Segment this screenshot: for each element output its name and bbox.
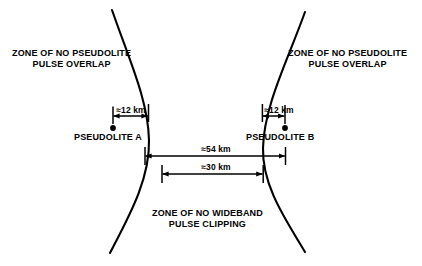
pseudolite-zone-diagram: ZONE OF NO PSEUDOLITE PULSE OVERLAP ZONE… <box>0 0 422 266</box>
zone-label-bottom: ZONE OF NO WIDEBAND PULSE CLIPPING <box>152 208 263 229</box>
zone-bottom-line1: ZONE OF NO WIDEBAND <box>152 208 263 219</box>
pseudolite-a-dot <box>110 125 116 131</box>
zone-label-right: ZONE OF NO PSEUDOLITE PULSE OVERLAP <box>288 48 407 69</box>
dim-12-left-label: ≈12 km <box>111 105 151 115</box>
zone-bottom-line2: PULSE CLIPPING <box>152 219 263 230</box>
pseudolite-b-dot <box>282 125 288 131</box>
zone-right-line2: PULSE OVERLAP <box>288 59 407 70</box>
zone-left-line1: ZONE OF NO PSEUDOLITE <box>12 48 131 59</box>
pseudolite-b-label: PSEUDOLITE B <box>246 132 314 143</box>
dim-54-label: ≈54 km <box>186 144 246 154</box>
zone-label-left: ZONE OF NO PSEUDOLITE PULSE OVERLAP <box>12 48 131 69</box>
zone-right-line1: ZONE OF NO PSEUDOLITE <box>288 48 407 59</box>
pseudolite-a-label: PSEUDOLITE A <box>74 132 142 143</box>
dim-30-label: ≈30 km <box>186 162 246 172</box>
dim-12-right-label: ≈12 km <box>259 105 299 115</box>
zone-left-line2: PULSE OVERLAP <box>12 59 131 70</box>
